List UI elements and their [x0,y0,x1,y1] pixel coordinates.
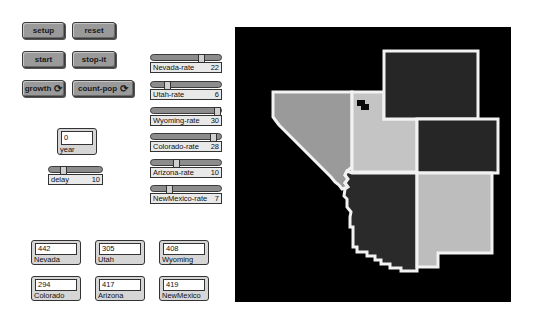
forever-icon: ⟳ [54,85,62,93]
colorado-monitor: 294 Colorado [31,276,81,301]
arizona-rate-slider[interactable]: Arizona-rate10 [150,159,222,179]
wyoming-monitor: 408 Wyoming [159,240,209,265]
slider-name: Colorado-rate [153,142,199,151]
reset-button[interactable]: reset [72,22,116,39]
stop-it-label: stop-it [82,55,106,64]
slider-name: delay [51,175,69,184]
monitor-label: Utah [98,255,114,264]
slider-value: 30 [211,116,219,125]
year-value: 0 [61,131,93,145]
utah-rate-slider[interactable]: Utah-rate6 [150,81,222,101]
monitor-value: 419 [163,279,205,291]
nevada-rate-slider[interactable]: Nevada-rate22 [150,54,222,74]
slider-label: Arizona-rate10 [150,167,222,178]
colorado-rate-slider[interactable]: Colorado-rate28 [150,133,222,153]
arizona-monitor: 417 Arizona [95,276,145,301]
monitor-value: 417 [99,279,141,291]
nevada-monitor: 442 Nevada [31,240,81,265]
start-button[interactable]: start [22,51,65,68]
growth-label: growth [25,84,52,93]
slider-name: Nevada-rate [153,63,194,72]
slider-name: Utah-rate [153,90,184,99]
slider-name: Arizona-rate [153,168,194,177]
slider-track[interactable] [48,166,103,173]
slider-track[interactable] [150,81,222,88]
monitor-value: 305 [99,243,141,255]
state-arizona[interactable] [344,171,417,271]
slider-label: Utah-rate6 [150,89,222,100]
reset-label: reset [84,26,103,35]
state-wyoming[interactable] [384,51,478,119]
monitor-label: Wyoming [162,255,193,264]
stop-it-button[interactable]: stop-it [72,51,116,68]
slider-value: 28 [211,142,219,151]
count-pop-button[interactable]: count-pop ⟳ [72,80,134,97]
states-map [235,27,511,302]
slider-track[interactable] [150,185,222,192]
state-nevada[interactable] [273,92,352,189]
slider-name: NewMexico-rate [153,194,207,203]
slider-name: Wyoming-rate [153,116,200,125]
wyoming-rate-slider[interactable]: Wyoming-rate30 [150,107,222,127]
setup-button[interactable]: setup [22,22,65,39]
year-label: year [60,145,75,154]
slider-label: NewMexico-rate7 [150,193,222,204]
newmexico-monitor: 419 NewMexico [159,276,209,301]
setup-label: setup [33,26,54,35]
slider-label: delay10 [48,174,103,185]
start-label: start [35,55,52,64]
slider-value: 10 [92,175,100,184]
slider-label: Wyoming-rate30 [150,115,222,126]
monitor-label: NewMexico [162,291,201,300]
slider-value: 22 [211,63,219,72]
state-colorado[interactable] [417,119,498,173]
slider-value: 7 [215,194,219,203]
count-pop-label: count-pop [78,84,117,93]
delay-slider[interactable]: delay10 [48,166,103,186]
slider-track[interactable] [150,133,222,140]
monitor-label: Colorado [34,291,64,300]
monitor-label: Nevada [34,255,60,264]
slider-value: 10 [211,168,219,177]
slider-track[interactable] [150,107,222,114]
slider-label: Colorado-rate28 [150,141,222,152]
monitor-value: 442 [35,243,77,255]
state-newmexico[interactable] [417,173,492,267]
slider-track[interactable] [150,159,222,166]
slider-label: Nevada-rate22 [150,62,222,73]
slider-track[interactable] [150,54,222,61]
monitor-label: Arizona [98,291,123,300]
year-monitor: 0 year [57,128,97,155]
utah-monitor: 305 Utah [95,240,145,265]
slider-value: 6 [215,90,219,99]
forever-icon: ⟳ [120,85,128,93]
monitor-value: 408 [163,243,205,255]
growth-button[interactable]: growth ⟳ [22,80,65,97]
world-view[interactable] [235,27,511,302]
monitor-value: 294 [35,279,77,291]
newmexico-rate-slider[interactable]: NewMexico-rate7 [150,185,222,205]
